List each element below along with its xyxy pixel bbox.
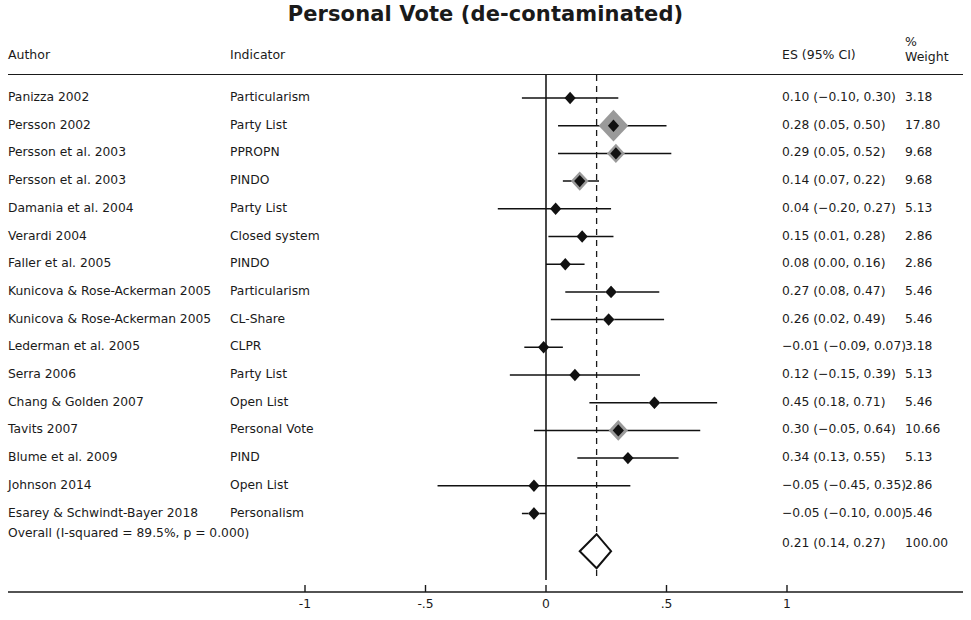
overall-label: Overall (I-squared = 89.5%, p = 0.000)	[8, 526, 249, 540]
point-estimate-diamond	[565, 92, 576, 104]
row-author: Persson et al. 2003	[8, 173, 126, 187]
row-indicator: CL-Share	[230, 312, 285, 326]
row-indicator: Open List	[230, 478, 288, 492]
study-marker-group	[565, 286, 659, 299]
study-marker-group	[438, 480, 631, 492]
row-indicator: PINDO	[230, 256, 269, 270]
study-marker-group	[510, 369, 640, 381]
row-effect-size: 0.29 (0.05, 0.52)	[782, 145, 885, 159]
row-effect-size: −0.05 (−0.45, 0.35)	[782, 478, 906, 492]
row-effect-size: 0.14 (0.07, 0.22)	[782, 173, 885, 187]
point-estimate-diamond	[538, 341, 549, 353]
study-marker-group	[551, 313, 664, 326]
row-indicator: PIND	[230, 450, 260, 464]
row-author: Kunicova & Rose-Ackerman 2005	[8, 312, 211, 326]
row-indicator: Party List	[230, 367, 287, 381]
row-author: Damania et al. 2004	[8, 201, 134, 215]
study-marker-group	[546, 258, 585, 270]
row-effect-size: 0.26 (0.02, 0.49)	[782, 312, 885, 326]
point-estimate-diamond	[603, 313, 614, 325]
row-effect-size: −0.05 (−0.10, 0.00)	[782, 506, 906, 520]
row-author: Faller et al. 2005	[8, 256, 111, 270]
row-weight: 10.66	[905, 422, 940, 436]
study-marker-group	[558, 144, 671, 163]
study-marker-group	[589, 396, 717, 409]
study-marker-group	[577, 452, 678, 464]
row-indicator: CLPR	[230, 339, 261, 353]
row-weight: 5.13	[905, 367, 932, 381]
row-author: Verardi 2004	[8, 229, 87, 243]
row-weight: 5.46	[905, 506, 932, 520]
row-author: Tavits 2007	[8, 422, 78, 436]
study-marker-group	[534, 420, 700, 441]
row-weight: 5.13	[905, 201, 932, 215]
study-marker-group	[563, 172, 599, 191]
row-indicator: PINDO	[230, 173, 269, 187]
row-weight: 9.68	[905, 173, 932, 187]
row-author: Johnson 2014	[8, 478, 92, 492]
row-weight: 5.46	[905, 395, 932, 409]
point-estimate-diamond	[550, 203, 561, 215]
row-effect-size: −0.01 (−0.09, 0.07)	[782, 339, 906, 353]
x-axis-tick-label: .5	[661, 597, 673, 611]
row-weight: 2.86	[905, 478, 932, 492]
row-weight: 2.86	[905, 256, 932, 270]
x-axis-tick-label: 0	[542, 597, 550, 611]
row-weight: 5.46	[905, 284, 932, 298]
x-axis-tick-label: 1	[783, 597, 791, 611]
row-author: Kunicova & Rose-Ackerman 2005	[8, 284, 211, 298]
row-effect-size: 0.27 (0.08, 0.47)	[782, 284, 885, 298]
row-effect-size: 0.04 (−0.20, 0.27)	[782, 201, 896, 215]
row-weight: 5.46	[905, 312, 932, 326]
row-author: Esarey & Schwindt-Bayer 2018	[8, 506, 198, 520]
row-indicator: Personalism	[230, 506, 304, 520]
row-indicator: Particularism	[230, 90, 310, 104]
point-estimate-diamond	[622, 452, 633, 464]
point-estimate-diamond	[569, 369, 580, 381]
overall-effect-size: 0.21 (0.14, 0.27)	[782, 536, 885, 550]
row-author: Persson et al. 2003	[8, 145, 126, 159]
row-effect-size: 0.15 (0.01, 0.28)	[782, 229, 885, 243]
row-effect-size: 0.28 (0.05, 0.50)	[782, 118, 885, 132]
overall-weight: 100.00	[905, 536, 948, 550]
x-axis-tick-label: -.5	[417, 597, 433, 611]
row-indicator: PPROPN	[230, 145, 280, 159]
row-weight: 5.13	[905, 450, 932, 464]
row-effect-size: 0.08 (0.00, 0.16)	[782, 256, 885, 270]
row-indicator: Party List	[230, 201, 287, 215]
study-marker-group	[522, 507, 546, 520]
point-estimate-diamond	[560, 258, 571, 270]
point-estimate-diamond	[605, 286, 616, 298]
row-author: Panizza 2002	[8, 90, 89, 104]
row-author: Lederman et al. 2005	[8, 339, 140, 353]
x-axis-tick-label: -1	[299, 597, 311, 611]
row-weight: 3.18	[905, 339, 932, 353]
point-estimate-diamond	[528, 480, 539, 492]
point-estimate-diamond	[577, 230, 588, 242]
row-author: Blume et al. 2009	[8, 450, 117, 464]
row-indicator: Closed system	[230, 229, 320, 243]
row-effect-size: 0.30 (−0.05, 0.64)	[782, 422, 896, 436]
row-indicator: Open List	[230, 395, 288, 409]
overall-effect-diamond	[580, 534, 611, 568]
study-marker-group	[548, 230, 613, 242]
row-weight: 2.86	[905, 229, 932, 243]
row-effect-size: 0.34 (0.13, 0.55)	[782, 450, 885, 464]
study-marker-group	[524, 341, 563, 353]
row-effect-size: 0.10 (−0.10, 0.30)	[782, 90, 896, 104]
study-marker-group	[522, 92, 618, 104]
point-estimate-diamond	[528, 507, 539, 519]
row-weight: 9.68	[905, 145, 932, 159]
study-marker-group	[558, 110, 666, 142]
row-author: Persson 2002	[8, 118, 91, 132]
row-weight: 3.18	[905, 90, 932, 104]
row-effect-size: 0.12 (−0.15, 0.39)	[782, 367, 896, 381]
row-weight: 17.80	[905, 118, 940, 132]
row-effect-size: 0.45 (0.18, 0.71)	[782, 395, 885, 409]
row-indicator: Particularism	[230, 284, 310, 298]
row-author: Serra 2006	[8, 367, 76, 381]
row-indicator: Personal Vote	[230, 422, 314, 436]
study-marker-group	[498, 203, 611, 215]
point-estimate-diamond	[649, 397, 660, 409]
row-indicator: Party List	[230, 118, 287, 132]
